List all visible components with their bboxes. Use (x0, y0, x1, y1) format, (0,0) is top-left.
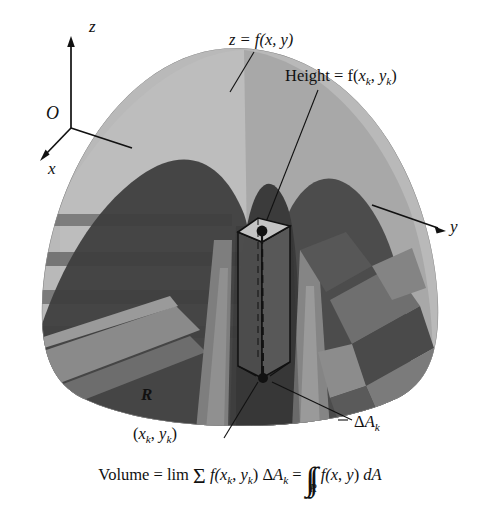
formula-integrand-close: ) (354, 465, 364, 484)
volume-formula: Volume = lim Σ f(xk, yk) ΔAk = ∫∫R f(x, … (0, 466, 480, 488)
area-element-label: ΔAk (354, 414, 380, 433)
formula-sigma: Σ (193, 464, 206, 488)
y-axis-arrowhead (435, 227, 446, 234)
formula-integrand-y: y (346, 465, 353, 484)
formula-A: A (273, 465, 283, 484)
region-label: R (141, 386, 152, 403)
double-integral-symbol: ∫∫R (306, 470, 317, 488)
surface-contour-band-4 (40, 214, 232, 226)
x-axis-line (45, 128, 71, 155)
integral-subscript-R: R (310, 485, 317, 492)
formula-delta: Δ (262, 465, 273, 484)
formula-fcomma: , (232, 465, 240, 484)
height-label: Height = f(xk, yk) (285, 68, 397, 87)
y-axis-label: y (450, 218, 458, 235)
surface-point-dot (257, 226, 268, 237)
height-label-prefix: Height = f( (285, 66, 358, 85)
x-axis-label: x (48, 160, 56, 177)
formula-equals-2: = (288, 465, 306, 484)
sample-point-close: ) (171, 424, 177, 443)
surface-equation-label: z = f(x, y) (229, 32, 293, 49)
formula-lim: lim (167, 465, 189, 484)
formula-d: d (363, 465, 371, 484)
surface-diagram (0, 0, 480, 511)
sample-point-comma: , (151, 424, 159, 443)
prism-face-right (262, 226, 290, 378)
formula-equals-1: = (149, 465, 167, 484)
area-delta-symbol: Δ (354, 412, 365, 431)
formula-volume-word: Volume (98, 465, 149, 484)
sample-point-label: (xk, yk) (133, 426, 177, 445)
prism-column (238, 218, 290, 383)
z-axis-arrowhead (67, 36, 75, 47)
sample-point-dot (258, 373, 268, 383)
height-label-suffix: ) (391, 66, 397, 85)
height-label-comma: , (371, 66, 379, 85)
formula-f-open: f( (206, 465, 220, 484)
formula-fy: y (241, 465, 248, 484)
height-label-x: x (358, 66, 365, 85)
area-A-symbol: A (365, 412, 375, 431)
figure-container: z O x y z = f(x, y) Height = f(xk, yk) R… (0, 0, 480, 511)
z-axis-label: z (89, 18, 96, 35)
origin-label: O (46, 104, 59, 122)
formula-integrand-x: x (331, 465, 338, 484)
sample-point-x: x (139, 424, 146, 443)
area-k-subscript: k (375, 421, 380, 433)
formula-integrand-open: f( (317, 465, 331, 484)
formula-dA: A (372, 465, 382, 484)
